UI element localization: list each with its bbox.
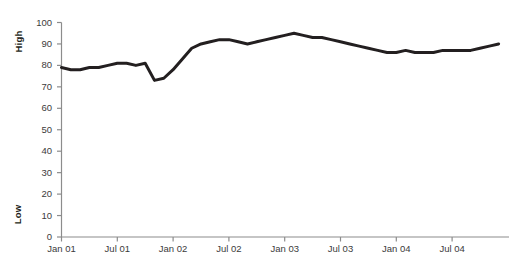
- axis-lines: [62, 23, 510, 238]
- y-axis-ticks: [57, 23, 62, 238]
- plot-area: [0, 0, 524, 277]
- data-series-line: [62, 33, 499, 80]
- line-chart: High Low 0102030405060708090100 Jan 01Ju…: [0, 0, 524, 277]
- x-axis-ticks: [62, 237, 453, 242]
